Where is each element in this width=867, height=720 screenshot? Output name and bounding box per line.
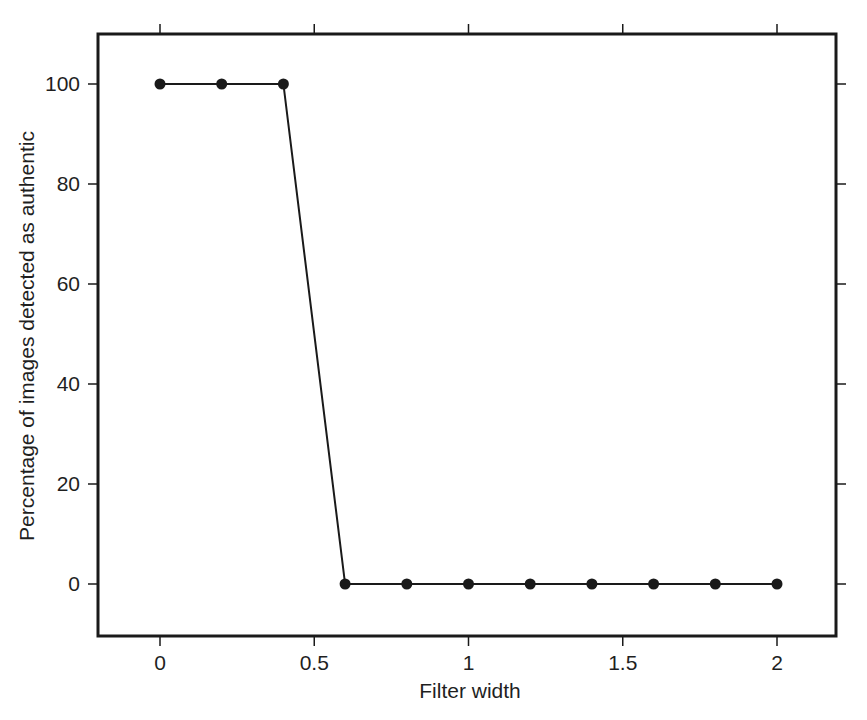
data-point-marker [772, 579, 783, 590]
x-tick-label: 2 [771, 651, 783, 674]
x-tick-label: 0 [154, 651, 166, 674]
data-point-marker [155, 79, 166, 90]
x-axis-tick-labels: 00.511.52 [154, 651, 783, 674]
x-axis-label: Filter width [419, 679, 521, 702]
plot-border [98, 34, 836, 636]
data-point-marker [648, 579, 659, 590]
x-tick-label: 0.5 [300, 651, 329, 674]
line-chart: 00.511.52 020406080100 Filter width Perc… [0, 0, 867, 720]
data-point-marker [340, 579, 351, 590]
data-point-marker [278, 79, 289, 90]
x-tick-label: 1 [463, 651, 475, 674]
axis-ticks [88, 24, 846, 646]
y-tick-label: 80 [57, 172, 80, 195]
data-point-marker [586, 579, 597, 590]
y-tick-label: 20 [57, 472, 80, 495]
y-tick-label: 40 [57, 372, 80, 395]
plot-frame [98, 34, 836, 636]
data-series [155, 79, 783, 590]
y-tick-label: 60 [57, 272, 80, 295]
data-point-marker [463, 579, 474, 590]
data-point-marker [401, 579, 412, 590]
series-line [160, 84, 777, 584]
x-tick-label: 1.5 [608, 651, 637, 674]
y-tick-label: 100 [45, 72, 80, 95]
data-point-marker [525, 579, 536, 590]
y-axis-tick-labels: 020406080100 [45, 72, 80, 595]
data-point-marker [710, 579, 721, 590]
y-tick-label: 0 [68, 572, 80, 595]
y-axis-label: Percentage of images detected as authent… [15, 131, 38, 541]
data-point-marker [216, 79, 227, 90]
